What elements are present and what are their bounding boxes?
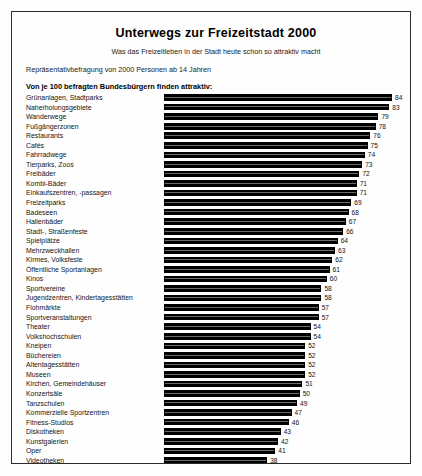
bar: [164, 304, 319, 311]
chart-legend-caption: Von je 100 befragten Bundesbürgern finde…: [26, 82, 400, 91]
bar: [164, 352, 305, 359]
bar-category-label: Büchereien: [26, 351, 164, 361]
bar-value-label: 41: [278, 446, 285, 456]
bar-category-label: Sportveranstaltungen: [26, 313, 164, 323]
bar-category-label: Kommerzielle Sportzentren: [26, 408, 164, 418]
bar-track: 75: [164, 141, 400, 151]
bar: [164, 113, 378, 120]
bar-category-label: Kirchen, Gemeindehäuser: [26, 379, 164, 389]
bar-category-label: Stadt-, Straßenfeste: [26, 227, 164, 237]
bar-category-label: Kirmes, Volksfeste: [26, 255, 164, 265]
bar-value-label: 78: [379, 122, 386, 132]
chart-row: Mehrzweckhallen63: [26, 246, 400, 256]
chart-row: Museen52: [26, 370, 400, 380]
chart-frame: Unterwegs zur Freizeitstadt 2000 Was das…: [11, 11, 411, 464]
bar-value-label: 47: [295, 408, 302, 418]
bar-value-label: 38: [270, 456, 277, 464]
bar-track: 52: [164, 360, 400, 370]
bar-category-label: Öffentliche Sportanlagen: [26, 265, 164, 275]
bar-value-label: 52: [308, 341, 315, 351]
bar: [164, 285, 321, 292]
chart-row: Fußgängerzonen78: [26, 122, 400, 132]
bar-track: 54: [164, 332, 400, 342]
bar: [164, 390, 300, 397]
bar-track: 38: [164, 456, 400, 464]
bar-track: 78: [164, 122, 400, 132]
bar: [164, 152, 365, 159]
bar-value-label: 72: [362, 169, 369, 179]
chart-row: Fahrradwege74: [26, 150, 400, 160]
chart-row: Tierparks, Zoos73: [26, 160, 400, 170]
page-title: Unterwegs zur Freizeitstadt 2000: [26, 26, 400, 40]
bar-track: 61: [164, 265, 400, 275]
bar-track: 63: [164, 246, 400, 256]
bar-track: 71: [164, 179, 400, 189]
bar-value-label: 67: [349, 217, 356, 227]
chart-row: Jugendzentren, Kindertagesstätten58: [26, 293, 400, 303]
bar-value-label: 52: [308, 360, 315, 370]
bar-category-label: Naherholungsgebiete: [26, 103, 164, 113]
bar-track: 62: [164, 255, 400, 265]
bar: [164, 247, 335, 254]
chart-row: Kneipen52: [26, 341, 400, 351]
bar-category-label: Oper: [26, 446, 164, 456]
bar-value-label: 58: [324, 284, 331, 294]
bar-value-label: 50: [303, 389, 310, 399]
bar-value-label: 54: [314, 332, 321, 342]
bar-category-label: Mehrzweckhallen: [26, 246, 164, 256]
bar-value-label: 61: [333, 265, 340, 275]
bar-category-label: Museen: [26, 370, 164, 380]
chart-row: Kirchen, Gemeindehäuser51: [26, 379, 400, 389]
bar-track: 52: [164, 351, 400, 361]
bar-value-label: 62: [335, 255, 342, 265]
chart-row: Einkaufszentren, -passagen71: [26, 188, 400, 198]
bar-track: 52: [164, 341, 400, 351]
bar: [164, 362, 305, 369]
bar-track: 52: [164, 370, 400, 380]
bar-track: 73: [164, 160, 400, 170]
bar: [164, 266, 330, 273]
bar-value-label: 76: [373, 131, 380, 141]
bar: [164, 381, 302, 388]
bar-category-label: Diskotheken: [26, 427, 164, 437]
chart-inner: Unterwegs zur Freizeitstadt 2000 Was das…: [12, 12, 410, 463]
chart-row: Kirmes, Volksfeste62: [26, 255, 400, 265]
bar-track: 46: [164, 418, 400, 428]
bar-track: 84: [164, 93, 400, 103]
bar-track: 68: [164, 208, 400, 218]
poster-page: Unterwegs zur Freizeitstadt 2000 Was das…: [0, 0, 422, 476]
bar-category-label: Fitness-Studios: [26, 418, 164, 428]
bar-track: 47: [164, 408, 400, 418]
bar-track: 76: [164, 131, 400, 141]
chart-row: Tanzschulen49: [26, 399, 400, 409]
bar: [164, 142, 368, 149]
bar-category-label: Einkaufszentren, -passagen: [26, 188, 164, 198]
bar-category-label: Theater: [26, 322, 164, 332]
bar: [164, 104, 389, 111]
chart-row: Büchereien52: [26, 351, 400, 361]
chart-row: Naherholungsgebiete83: [26, 103, 400, 113]
bar-category-label: Restaurants: [26, 131, 164, 141]
methodology-note: Repräsentativbefragung von 2000 Personen…: [26, 65, 400, 74]
bar-track: 51: [164, 379, 400, 389]
chart-row: Hallenbäder67: [26, 217, 400, 227]
bar: [164, 400, 297, 407]
bar: [164, 295, 321, 302]
bar-track: 50: [164, 389, 400, 399]
bar-track: 49: [164, 399, 400, 409]
bar: [164, 438, 278, 445]
bar-track: 67: [164, 217, 400, 227]
bar: [164, 419, 289, 426]
bar-category-label: Flohmärkte: [26, 303, 164, 313]
chart-row: Wanderwege79: [26, 112, 400, 122]
bar-category-label: Jugendzentren, Kindertagesstätten: [26, 293, 164, 303]
bar: [164, 132, 370, 139]
bar: [164, 94, 392, 101]
bar-track: 58: [164, 284, 400, 294]
bar-category-label: Freibäder: [26, 169, 164, 179]
chart-row: Kinos60: [26, 274, 400, 284]
bar-value-label: 52: [308, 370, 315, 380]
bar-value-label: 46: [292, 418, 299, 428]
bar: [164, 199, 351, 206]
bar: [164, 428, 281, 435]
